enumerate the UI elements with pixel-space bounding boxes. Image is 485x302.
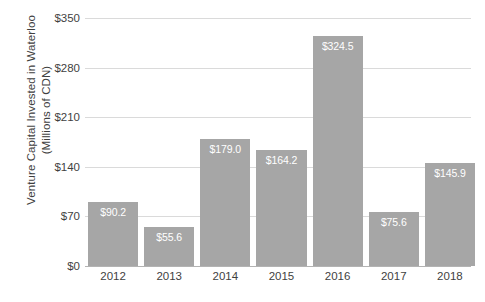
- bar-value-label: $324.5: [313, 40, 363, 52]
- bar-2012[interactable]: $90.2: [88, 202, 138, 266]
- bar-2014[interactable]: $179.0: [200, 139, 250, 266]
- x-axis-tick-label: 2013: [141, 270, 197, 282]
- x-axis-tick-label: 2012: [85, 270, 141, 282]
- x-axis-tick-label: 2017: [366, 270, 422, 282]
- bar-value-label: $179.0: [200, 143, 250, 155]
- bar-slot: $324.5: [310, 0, 366, 266]
- bars-layer: $90.2$55.6$179.0$164.2$324.5$75.6$145.9: [85, 0, 478, 266]
- x-axis-tick-label: 2018: [422, 270, 478, 282]
- bar-slot: $145.9: [422, 0, 478, 266]
- x-axis-line: [85, 266, 471, 267]
- bar-2016[interactable]: $324.5: [313, 36, 363, 266]
- bar-chart: Venture Capital Invested in Waterloo (Mi…: [0, 0, 485, 302]
- bar-slot: $179.0: [197, 0, 253, 266]
- y-axis-tick-label: $70: [38, 210, 80, 222]
- x-axis-tick-label: 2014: [197, 270, 253, 282]
- y-axis-tick-labels: $0$70$140$210$280$350: [36, 0, 80, 302]
- y-axis-tick-label: $0: [38, 260, 80, 272]
- bar-value-label: $90.2: [88, 206, 138, 218]
- bar-2018[interactable]: $145.9: [425, 163, 475, 266]
- bar-slot: $164.2: [253, 0, 309, 266]
- y-axis-tick-label: $140: [38, 161, 80, 173]
- bar-2017[interactable]: $75.6: [369, 212, 419, 266]
- x-axis-tick-labels: 2012201320142015201620172018: [85, 270, 478, 290]
- bar-2013[interactable]: $55.6: [144, 227, 194, 266]
- bar-value-label: $164.2: [256, 154, 306, 166]
- y-axis-tick-label: $210: [38, 111, 80, 123]
- bar-value-label: $55.6: [144, 231, 194, 243]
- bar-slot: $90.2: [85, 0, 141, 266]
- bar-slot: $75.6: [366, 0, 422, 266]
- y-axis-tick-label: $350: [38, 12, 80, 24]
- bar-value-label: $145.9: [425, 167, 475, 179]
- bar-slot: $55.6: [141, 0, 197, 266]
- bar-2015[interactable]: $164.2: [256, 150, 306, 266]
- x-axis-tick-label: 2016: [310, 270, 366, 282]
- x-axis-tick-label: 2015: [253, 270, 309, 282]
- bar-value-label: $75.6: [369, 216, 419, 228]
- y-axis-tick-label: $280: [38, 62, 80, 74]
